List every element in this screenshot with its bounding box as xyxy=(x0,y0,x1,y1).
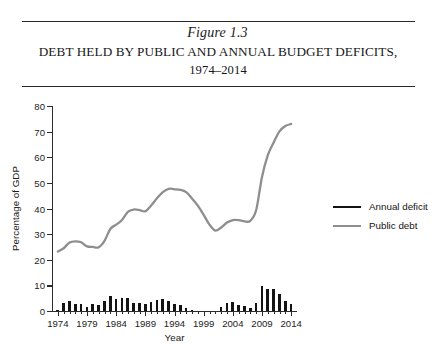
x-tick-mark-minor xyxy=(280,311,281,314)
x-tick-mark-minor xyxy=(192,311,193,314)
x-tick-mark-minor xyxy=(157,311,158,314)
line-series-public-debt xyxy=(52,106,297,311)
x-tick-label: 2004 xyxy=(222,318,243,329)
y-tick-label: 80 xyxy=(34,101,45,112)
x-tick-mark-minor xyxy=(110,311,111,314)
line-path xyxy=(58,124,291,252)
y-tick-mark xyxy=(47,311,52,312)
x-axis-label: Year xyxy=(52,332,297,343)
x-tick-mark-minor xyxy=(122,311,123,314)
x-tick-mark-minor xyxy=(245,311,246,314)
x-tick-mark-minor xyxy=(93,311,94,314)
x-tick-mark-minor xyxy=(221,311,222,314)
x-tick-mark-major xyxy=(233,311,234,316)
x-tick-mark-minor xyxy=(75,311,76,314)
x-tick-mark-minor xyxy=(250,311,251,314)
x-tick-mark-minor xyxy=(169,311,170,314)
figure-container: Figure 1.3 DEBT HELD BY PUBLIC AND ANNUA… xyxy=(0,0,435,355)
x-tick-mark-minor xyxy=(81,311,82,314)
chart-legend: Annual deficitPublic debt xyxy=(333,197,428,235)
y-tick-label: 0 xyxy=(40,306,45,317)
x-tick-label: 1994 xyxy=(164,318,185,329)
x-tick-label: 2009 xyxy=(251,318,272,329)
x-tick-mark-minor xyxy=(180,311,181,314)
x-tick-mark-major xyxy=(204,311,205,316)
legend-label: Annual deficit xyxy=(369,201,428,212)
legend-label: Public debt xyxy=(369,220,417,231)
figure-rule-bottom xyxy=(22,86,415,87)
y-axis-label: Percentage of GDP xyxy=(8,106,22,311)
figure-title-line1: DEBT HELD BY PUBLIC AND ANNUAL BUDGET DE… xyxy=(39,44,398,59)
legend-swatch-icon xyxy=(333,225,361,227)
x-tick-mark-minor xyxy=(186,311,187,314)
x-tick-label: 1999 xyxy=(193,318,214,329)
y-tick-label: 10 xyxy=(34,280,45,291)
x-tick-mark-minor xyxy=(210,311,211,314)
y-tick-label: 40 xyxy=(34,203,45,214)
x-tick-mark-minor xyxy=(227,311,228,314)
x-tick-mark-major xyxy=(116,311,117,316)
x-tick-mark-major xyxy=(58,311,59,316)
x-tick-mark-minor xyxy=(128,311,129,314)
y-tick-label: 50 xyxy=(34,177,45,188)
x-tick-mark-minor xyxy=(239,311,240,314)
legend-item[interactable]: Annual deficit xyxy=(333,197,428,216)
x-tick-mark-minor xyxy=(70,311,71,314)
x-tick-label: 1989 xyxy=(135,318,156,329)
y-axis-label-text: Percentage of GDP xyxy=(10,166,21,251)
x-tick-mark-major xyxy=(145,311,146,316)
x-tick-mark-minor xyxy=(64,311,65,314)
x-tick-mark-major xyxy=(87,311,88,316)
legend-item[interactable]: Public debt xyxy=(333,216,428,235)
x-tick-mark-minor xyxy=(163,311,164,314)
x-tick-mark-major xyxy=(175,311,176,316)
y-tick-label: 30 xyxy=(34,229,45,240)
x-tick-mark-minor xyxy=(151,311,152,314)
x-tick-label: 1984 xyxy=(105,318,126,329)
y-tick-label: 70 xyxy=(34,126,45,137)
y-tick-label: 60 xyxy=(34,152,45,163)
x-tick-label: 1979 xyxy=(76,318,97,329)
x-tick-mark-minor xyxy=(134,311,135,314)
figure-title-line2: 1974–2014 xyxy=(28,62,408,80)
x-tick-mark-minor xyxy=(105,311,106,314)
plot-area: 01020304050607080 1974197919841989199419… xyxy=(52,106,297,311)
x-tick-label: 1974 xyxy=(47,318,68,329)
x-tick-mark-minor xyxy=(198,311,199,314)
x-tick-mark-minor xyxy=(268,311,269,314)
x-tick-mark-minor xyxy=(285,311,286,314)
x-tick-mark-minor xyxy=(215,311,216,314)
y-tick-label: 20 xyxy=(34,254,45,265)
figure-title: DEBT HELD BY PUBLIC AND ANNUAL BUDGET DE… xyxy=(28,43,408,80)
figure-number: Figure 1.3 xyxy=(0,25,435,41)
x-tick-label: 2014 xyxy=(280,318,301,329)
x-tick-mark-major xyxy=(291,311,292,316)
legend-swatch-icon xyxy=(333,206,361,208)
x-tick-mark-major xyxy=(262,311,263,316)
figure-rule-top xyxy=(22,21,415,22)
x-tick-mark-minor xyxy=(256,311,257,314)
x-tick-mark-minor xyxy=(140,311,141,314)
x-tick-mark-minor xyxy=(274,311,275,314)
x-tick-mark-minor xyxy=(99,311,100,314)
